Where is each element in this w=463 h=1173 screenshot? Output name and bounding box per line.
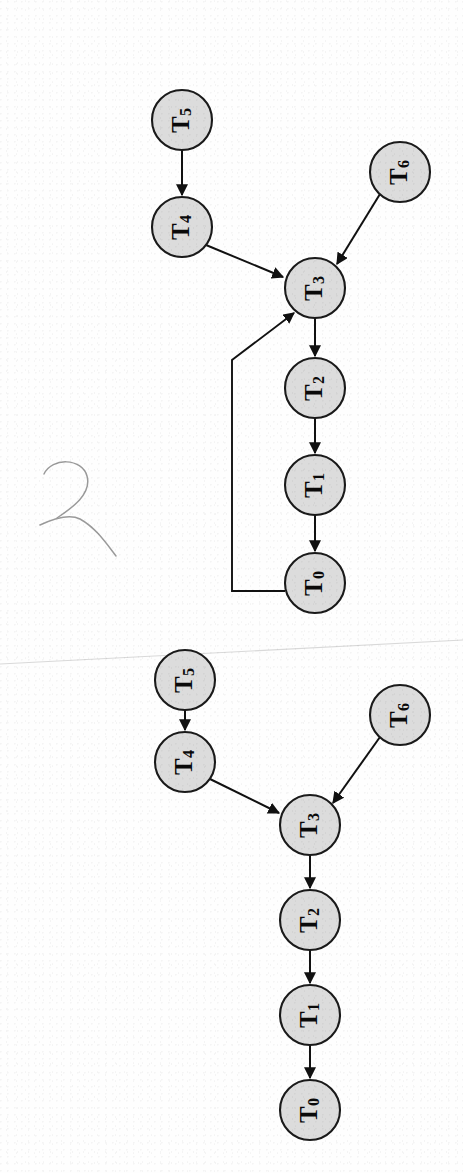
node-t5-lower[interactable]: T 5 xyxy=(155,650,215,710)
node-t0-subscript: 0 xyxy=(310,571,327,579)
node-t6-lower-subscript: 6 xyxy=(395,703,412,711)
node-t5-base: T xyxy=(167,116,194,133)
node-t1-subscript: 1 xyxy=(310,473,327,481)
node-t1-base: T xyxy=(300,481,327,498)
edge-t4-t3 xyxy=(206,245,283,277)
node-t2-lower-base: T xyxy=(295,916,322,933)
node-t0-base: T xyxy=(300,579,327,596)
node-t2-lower-subscript: 2 xyxy=(305,908,322,916)
node-t3-lower-subscript: 3 xyxy=(305,813,322,821)
node-t1-lower-subscript: 1 xyxy=(305,1003,322,1011)
node-t0-lower-base: T xyxy=(295,1106,322,1123)
node-t3-lower-base: T xyxy=(295,821,322,838)
node-t3[interactable]: T 3 xyxy=(285,258,345,318)
node-t5-lower-base: T xyxy=(170,676,197,693)
node-t5-subscript: 5 xyxy=(177,108,194,116)
node-t3-lower[interactable]: T 3 xyxy=(280,795,340,855)
node-t4-lower-base: T xyxy=(170,758,197,775)
scan-seam xyxy=(0,640,463,664)
node-t1[interactable]: T 1 xyxy=(285,455,345,515)
node-t2-lower[interactable]: T 2 xyxy=(280,890,340,950)
node-t5[interactable]: T 5 xyxy=(152,90,212,150)
node-t0-lower[interactable]: T 0 xyxy=(280,1080,340,1140)
node-t2-subscript: 2 xyxy=(310,376,327,384)
node-t4-lower[interactable]: T 4 xyxy=(155,732,215,792)
edge-t6-t3 xyxy=(337,194,380,264)
node-t2[interactable]: T 2 xyxy=(285,358,345,418)
scanned-page: T 5 T 4 T 6 T xyxy=(0,0,463,1173)
scanner-hair-artifact xyxy=(40,462,116,556)
node-t0[interactable]: T 0 xyxy=(285,553,345,613)
graph-canvas: T 5 T 4 T 6 T xyxy=(0,0,463,1173)
node-t2-base: T xyxy=(300,384,327,401)
node-t5-lower-subscript: 5 xyxy=(180,668,197,676)
edge-t0-t3-feedback xyxy=(232,313,294,591)
node-t4[interactable]: T 4 xyxy=(152,197,212,257)
node-t3-subscript: 3 xyxy=(310,276,327,284)
node-t0-lower-subscript: 0 xyxy=(305,1098,322,1106)
node-t6-lower[interactable]: T 6 xyxy=(370,685,430,745)
node-t6-base: T xyxy=(385,168,412,185)
edge-t6-t3-lower xyxy=(333,737,380,803)
node-t1-lower[interactable]: T 1 xyxy=(280,985,340,1045)
upper-graph: T 5 T 4 T 6 T xyxy=(152,90,430,613)
node-t3-base: T xyxy=(300,284,327,301)
node-t4-lower-subscript: 4 xyxy=(180,750,197,758)
node-t6[interactable]: T 6 xyxy=(370,142,430,202)
node-t6-subscript: 6 xyxy=(395,160,412,168)
lower-graph: T 5 T 4 T 6 T xyxy=(155,650,430,1140)
node-t4-subscript: 4 xyxy=(177,215,194,223)
node-t1-lower-base: T xyxy=(295,1011,322,1028)
node-t6-lower-base: T xyxy=(385,711,412,728)
edge-t4-t3-lower xyxy=(210,779,279,813)
node-t4-base: T xyxy=(167,223,194,240)
